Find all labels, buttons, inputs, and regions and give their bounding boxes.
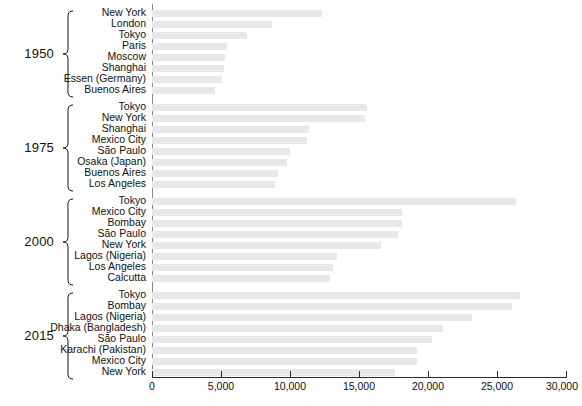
row-label: Buenos Aires bbox=[0, 84, 146, 95]
x-axis-line bbox=[152, 377, 567, 378]
bar-2000-2 bbox=[152, 220, 402, 227]
bar-2000-6 bbox=[152, 264, 333, 271]
row-label: Calcutta bbox=[0, 272, 146, 283]
bar-2015-0 bbox=[152, 292, 520, 299]
x-tick-label-2: 10,000 bbox=[274, 380, 306, 392]
x-tick-5 bbox=[497, 371, 498, 377]
bar-2000-3 bbox=[152, 231, 398, 238]
x-tick-3 bbox=[359, 371, 360, 377]
x-tick-4 bbox=[428, 371, 429, 377]
plot-area: 1950 New York London Tokyo bbox=[0, 0, 582, 406]
bar-1950-1 bbox=[152, 21, 272, 28]
bar-1975-6 bbox=[152, 170, 278, 177]
bar-2015-6 bbox=[152, 358, 417, 365]
row-label: Los Angeles bbox=[0, 178, 146, 189]
x-tick-2 bbox=[290, 371, 291, 377]
bar-1950-5 bbox=[152, 65, 224, 72]
bar-1950-3 bbox=[152, 43, 227, 50]
bar-1950-7 bbox=[152, 87, 215, 94]
bar-2015-4 bbox=[152, 336, 432, 343]
x-tick-1 bbox=[221, 371, 222, 377]
bar-1950-0 bbox=[152, 10, 322, 17]
table-row: Los Angeles bbox=[0, 179, 582, 190]
bar-2015-5 bbox=[152, 347, 417, 354]
bar-1950-2 bbox=[152, 32, 247, 39]
x-tick-6 bbox=[566, 371, 567, 377]
bar-2015-3 bbox=[152, 325, 443, 332]
x-tick-label-3: 15,000 bbox=[343, 380, 375, 392]
x-tick-label-4: 20,000 bbox=[412, 380, 444, 392]
bar-1975-5 bbox=[152, 159, 287, 166]
bar-2000-1 bbox=[152, 209, 402, 216]
bar-1975-1 bbox=[152, 115, 365, 122]
bar-2015-1 bbox=[152, 303, 512, 310]
bar-1950-4 bbox=[152, 54, 225, 61]
table-row: Buenos Aires bbox=[0, 85, 582, 96]
bar-1975-7 bbox=[152, 181, 275, 188]
x-tick-label-5: 25,000 bbox=[481, 380, 513, 392]
x-tick-0 bbox=[152, 371, 153, 377]
bar-1975-3 bbox=[152, 137, 307, 144]
x-tick-label-0: 0 bbox=[149, 380, 155, 392]
bar-2000-5 bbox=[152, 253, 337, 260]
bar-1975-0 bbox=[152, 104, 367, 111]
bar-2015-2 bbox=[152, 314, 472, 321]
x-tick-label-6: 30,000 bbox=[546, 380, 578, 392]
bar-1950-6 bbox=[152, 76, 222, 83]
bar-2000-4 bbox=[152, 242, 381, 249]
page-bottom-artifact bbox=[286, 396, 456, 405]
table-row: Calcutta bbox=[0, 273, 582, 284]
population-bar-chart: 1950 New York London Tokyo bbox=[0, 0, 582, 406]
row-label: New York bbox=[0, 366, 146, 377]
bar-2000-0 bbox=[152, 198, 516, 205]
bar-1975-4 bbox=[152, 148, 290, 155]
bar-1975-2 bbox=[152, 126, 309, 133]
x-tick-label-1: 5,000 bbox=[208, 380, 234, 392]
bar-2000-7 bbox=[152, 275, 330, 282]
